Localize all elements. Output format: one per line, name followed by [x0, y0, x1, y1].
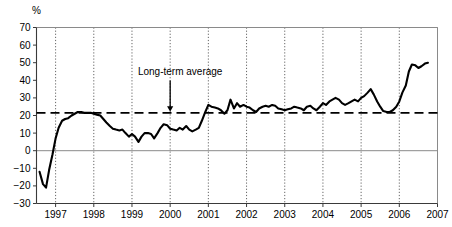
line-chart-canvas: 706050403020100−10−20−301997199819992000…: [0, 0, 452, 227]
x-tick-label-2006: 2006: [388, 209, 411, 220]
x-tick-label-2003: 2003: [274, 209, 297, 220]
x-tick-label-2002: 2002: [235, 209, 258, 220]
y-axis: 706050403020100−10−20−30: [14, 22, 37, 209]
down-arrow-icon: [167, 106, 173, 112]
y-tick-label-20: 20: [19, 110, 31, 121]
x-tick-label-1999: 1999: [121, 209, 144, 220]
y-tick-label-0: 0: [25, 145, 31, 156]
chart-figure: % 706050403020100−10−20−3019971998199920…: [0, 0, 452, 227]
y-tick-label--10: −10: [14, 163, 31, 174]
x-axis: 1997199819992000200120022003200420052006…: [44, 204, 449, 220]
x-tick-label-2001: 2001: [197, 209, 220, 220]
y-tick-label-60: 60: [19, 40, 31, 51]
x-tick-label-2004: 2004: [312, 209, 335, 220]
x-tick-label-2000: 2000: [159, 209, 182, 220]
y-tick-label--30: −30: [14, 198, 31, 209]
x-tick-label-1998: 1998: [83, 209, 106, 220]
data-series-series-1: [40, 63, 428, 188]
x-tick-label-1997: 1997: [44, 209, 67, 220]
y-tick-label--20: −20: [14, 180, 31, 191]
y-tick-label-30: 30: [19, 92, 31, 103]
y-tick-label-70: 70: [19, 22, 31, 33]
x-tick-label-2005: 2005: [350, 209, 373, 220]
y-tick-label-50: 50: [19, 57, 31, 68]
annotation-arrow: [167, 81, 173, 112]
y-tick-label-10: 10: [19, 128, 31, 139]
gridlines-vertical: [56, 28, 438, 204]
annotation-label: Long-term average: [138, 66, 223, 77]
x-tick-label-2007: 2007: [426, 209, 449, 220]
y-tick-label-40: 40: [19, 75, 31, 86]
